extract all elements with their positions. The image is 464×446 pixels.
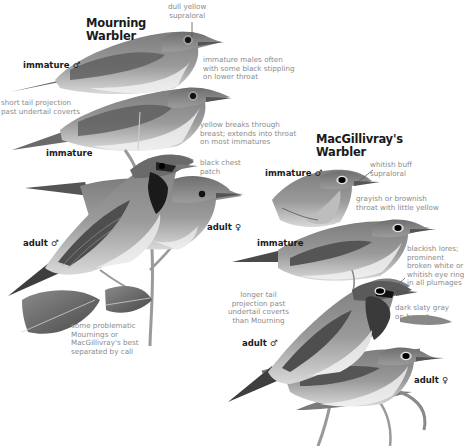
note-line: on breast: [395, 313, 449, 322]
mourning-adult-female-label: adult ♀: [207, 222, 241, 232]
note-line: past undertail coverts: [1, 108, 80, 117]
macgillivrays-adult-male-label: adult ♂: [242, 338, 277, 348]
macgillivrays-immature-label: immature: [257, 238, 303, 248]
macgillivrays-title-line2: Warbler: [316, 146, 403, 159]
mourning-adult-male-label: adult ♂: [23, 238, 58, 248]
note-line: in all plumages: [407, 279, 464, 288]
note-line: supraloral: [370, 170, 412, 179]
note-line: separated by call: [71, 348, 139, 357]
mourning-supraloral-note: dull yellow supraloral: [168, 3, 206, 20]
macgillivrays-adult-female-label: adult ♀: [414, 375, 448, 385]
mourning-chest-patch-note: black chest patch: [200, 159, 241, 176]
note-line: throat with little yellow: [356, 204, 439, 213]
note-line: patch: [200, 168, 241, 177]
macgillivrays-breast-note: dark slaty gray on breast: [395, 304, 449, 321]
macgillivrays-lores-note: blackish lores; prominent broken white o…: [407, 245, 464, 288]
mourning-yellow-breaks-note: yellow breaks through breast; extends in…: [200, 121, 296, 147]
macgillivrays-immature-male-label: immature ♂: [265, 168, 322, 178]
macgillivrays-throat-note: grayish or brownish throat with little y…: [356, 195, 439, 212]
mourning-problematic-note: some problematic Mournings or MacGillivr…: [71, 322, 139, 356]
mourning-warbler-title: Mourning Warbler: [86, 17, 146, 43]
note-line: supraloral: [168, 12, 206, 21]
mourning-tail-projection-note: short tail projection past undertail cov…: [1, 99, 80, 116]
note-line: on most immatures: [200, 138, 296, 147]
macgillivrays-supraloral-note: whitish buff supraloral: [370, 161, 412, 178]
note-line: than Mourning: [228, 317, 289, 326]
macgillivrays-warbler-title: MacGillivray's Warbler: [316, 133, 403, 159]
mourning-immature-males-note: immature males often with some black sti…: [203, 56, 295, 82]
mourning-immature-male-label: immature ♂: [23, 60, 80, 70]
note-line: on lower throat: [203, 73, 295, 82]
mourning-title-line2: Warbler: [86, 30, 146, 43]
macgillivrays-tail-projection-note: longer tail projection past undertail co…: [228, 291, 289, 325]
mourning-immature-label: immature: [46, 148, 92, 158]
